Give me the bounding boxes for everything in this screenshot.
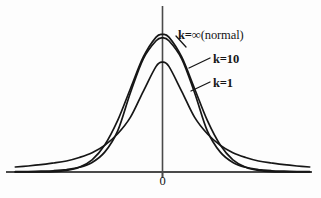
series-label-k-1: k=1 (213, 77, 233, 90)
x-axis-tick-label-zero: 0 (160, 175, 166, 188)
series-label-k-infinity-prefix: k=∞ (178, 28, 201, 42)
series-label-k-infinity: k=∞(normal) (178, 29, 244, 42)
series-label-k-10: k=10 (213, 53, 239, 66)
leader-line-k-10 (189, 58, 210, 68)
series-label-k-infinity-suffix: (normal) (201, 28, 244, 42)
t-distribution-figure: k=∞(normal) k=10 k=1 0 (0, 0, 321, 198)
plot-canvas (0, 0, 321, 198)
